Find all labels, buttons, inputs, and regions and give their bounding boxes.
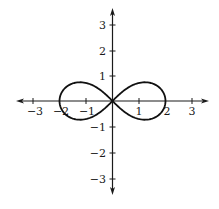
y-tick-label: 1 bbox=[99, 70, 106, 83]
y-tick-label: 2 bbox=[99, 45, 106, 58]
y-tick-label: 3 bbox=[99, 19, 106, 32]
chart: −3 −2 −1 1 2 3 3 2 1 −1 −2 −3 bbox=[0, 0, 219, 209]
x-tick-label: 3 bbox=[189, 105, 196, 118]
y-tick-label: −3 bbox=[90, 173, 106, 186]
x-tick-label: −3 bbox=[27, 105, 43, 118]
y-tick-label: −1 bbox=[90, 121, 106, 134]
y-tick-label: −2 bbox=[90, 147, 106, 160]
x-tick-label: 1 bbox=[136, 105, 143, 118]
